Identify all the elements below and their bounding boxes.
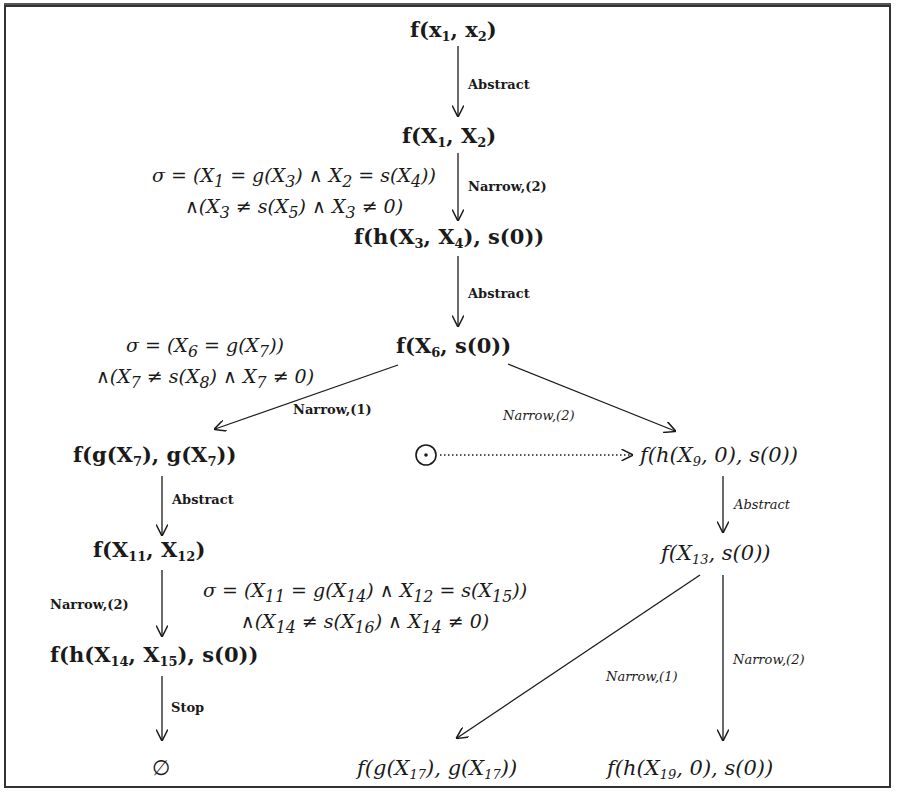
label-abstract-1: Abstract <box>468 77 530 93</box>
label-narrow-2-c: Narrow,(2) <box>50 597 129 613</box>
label-narrow-1-b: Narrow,(1) <box>606 669 678 685</box>
label-narrow-1-a: Narrow,(1) <box>293 402 372 418</box>
node-narrow-1: f(h(X3, X4), s(0)) <box>354 225 544 256</box>
constraint-sigma-3: σ = (X11 = g(X14) ∧ X12 = s(X15)) ∧(X14 … <box>170 578 560 640</box>
node-abstract-2: f(X6, s(0)) <box>396 334 511 365</box>
edges-layer <box>0 0 899 796</box>
constraint-sigma-1: σ = (X1 = g(X3) ∧ X2 = s(X4)) ∧(X3 ≠ s(X… <box>135 163 453 225</box>
node-right-2: f(X13, s(0)) <box>661 541 771 572</box>
label-abstract-4: Abstract <box>734 497 790 513</box>
odot-center-icon <box>424 453 428 457</box>
constraint-sigma-2-line-2: ∧(X7 ≠ s(X8) ∧ X7 ≠ 0) <box>70 364 340 395</box>
label-abstract-2: Abstract <box>468 286 530 302</box>
constraint-sigma-3-line-2: ∧(X14 ≠ s(X16) ∧ X14 ≠ 0) <box>170 609 560 640</box>
constraint-sigma-1-line-2: ∧(X3 ≠ s(X5) ∧ X3 ≠ 0) <box>135 194 453 225</box>
node-left-3: f(h(X14, X15), s(0)) <box>50 643 258 674</box>
constraint-sigma-1-line-1: σ = (X1 = g(X3) ∧ X2 = s(X4)) <box>135 163 453 194</box>
label-narrow-2-a: Narrow,(2) <box>468 179 547 195</box>
constraint-sigma-2-line-1: σ = (X6 = g(X7)) <box>70 333 340 364</box>
node-empty-set: ∅ <box>152 756 170 780</box>
label-narrow-2-d: Narrow,(2) <box>733 652 805 668</box>
node-left-2: f(X11, X12) <box>93 538 205 569</box>
constraint-sigma-3-line-1: σ = (X11 = g(X14) ∧ X12 = s(X15)) <box>170 578 560 609</box>
label-narrow-2-b: Narrow,(2) <box>503 408 575 424</box>
node-right-1: f(h(X9, 0), s(0)) <box>640 443 798 474</box>
node-abstract-1: f(X1, X2) <box>402 124 496 155</box>
label-abstract-3: Abstract <box>172 492 234 508</box>
node-left-1: f(g(X7), g(X7)) <box>73 443 236 474</box>
node-bottom-1: f(g(X17), g(X17)) <box>357 756 517 787</box>
constraint-sigma-2: σ = (X6 = g(X7)) ∧(X7 ≠ s(X8) ∧ X7 ≠ 0) <box>70 333 340 395</box>
label-stop: Stop <box>171 700 204 716</box>
node-root: f(x1, x2) <box>410 18 497 49</box>
node-bottom-2: f(h(X19, 0), s(0)) <box>607 756 773 787</box>
